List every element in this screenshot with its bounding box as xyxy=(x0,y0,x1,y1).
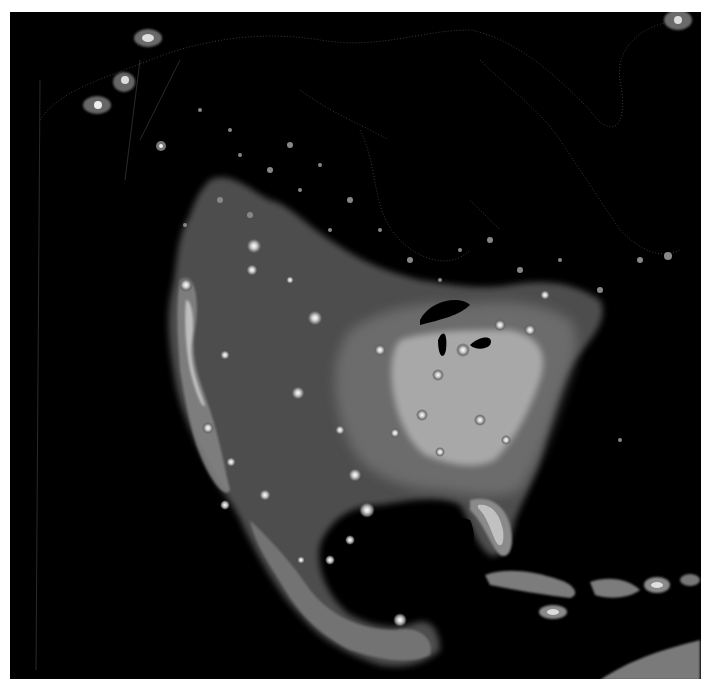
hudson-bay xyxy=(378,137,471,225)
map-canvas xyxy=(10,12,701,679)
caribbean-glow xyxy=(485,571,700,679)
alaska-lights xyxy=(83,29,166,151)
gulf-of-mexico xyxy=(367,513,474,591)
greenland-lights xyxy=(664,12,692,30)
night-lights-map xyxy=(10,12,701,679)
